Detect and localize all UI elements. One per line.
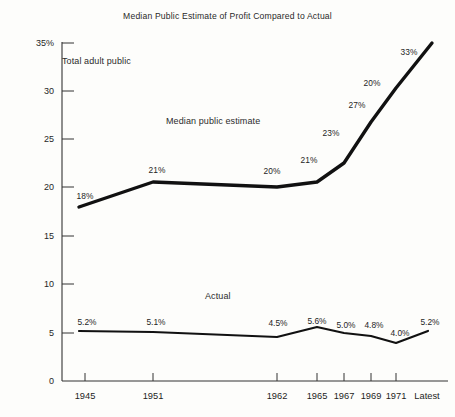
data-label-median-1951: 21%: [149, 166, 166, 174]
y-axis-label-5: 5: [12, 329, 54, 338]
y-axis-label-25: 25: [12, 135, 54, 144]
x-axis-label-1962: 1962: [267, 392, 288, 401]
data-label-actual-1962: 4.5%: [268, 319, 287, 327]
data-label-median-1967: 23%: [323, 129, 340, 137]
y-axis-ticks: [62, 43, 74, 333]
x-axis-label-1969: 1969: [361, 392, 382, 401]
y-axis-label-20: 20: [12, 183, 54, 192]
x-axis-label-1945: 1945: [75, 392, 96, 401]
data-label-median-1965: 21%: [301, 156, 318, 164]
data-label-median-1962: 20%: [264, 167, 281, 175]
x-axis-label-1951: 1951: [143, 392, 164, 401]
y-axis-label-15: 15: [12, 232, 54, 241]
data-label-actual-1967: 5.0%: [336, 321, 355, 329]
y-axis-label-30: 30: [12, 87, 54, 96]
annotation-total-adult-public: Total adult public: [62, 57, 131, 66]
y-axis-label-10: 10: [12, 280, 54, 289]
x-axis-label-1965: 1965: [307, 392, 328, 401]
y-axis-label-35: 35%: [12, 39, 54, 48]
data-label-median-latest: 33%: [401, 48, 418, 56]
annotation-median-public-estimate: Median public estimate: [166, 117, 260, 126]
x-axis-label-1971: 1971: [386, 392, 407, 401]
chart-container: Median Public Estimate of Profit Compare…: [0, 0, 455, 417]
y-axis-label-0: 0: [12, 377, 54, 386]
data-label-actual-1965: 5.6%: [307, 317, 326, 325]
data-label-median-1945: 18%: [77, 192, 94, 200]
data-label-actual-1971: 4.0%: [390, 329, 409, 337]
x-axis-label-latest: Latest: [414, 392, 439, 401]
data-label-actual-1945: 5.2%: [77, 318, 96, 326]
annotation-actual: Actual: [205, 292, 231, 301]
data-label-actual-1951: 5.1%: [146, 318, 165, 326]
data-label-median-1971: 20%: [364, 79, 381, 87]
data-label-actual-1969: 4.8%: [364, 321, 383, 329]
data-label-actual-latest: 5.2%: [420, 318, 439, 326]
x-axis-ticks: [85, 373, 396, 381]
x-axis-label-1967: 1967: [334, 392, 355, 401]
data-label-median-1969: 27%: [349, 101, 366, 109]
